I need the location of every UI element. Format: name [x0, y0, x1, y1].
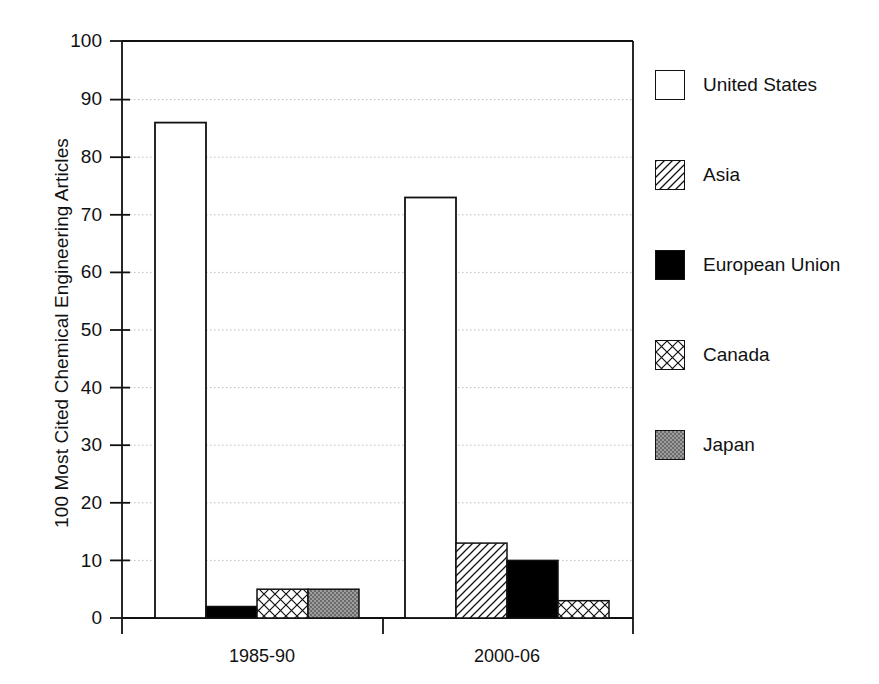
y-tick-label-50: 50 — [56, 320, 102, 339]
y-tick-label-100: 100 — [56, 31, 102, 50]
x-tick-label-2000-06: 2000-06 — [437, 646, 577, 667]
legend-item-united-states: United States — [655, 70, 817, 100]
bar-group-1985-90 — [155, 123, 359, 618]
y-tick-label-20: 20 — [56, 493, 102, 512]
y-tick-label-0: 0 — [56, 608, 102, 627]
legend-swatch-asia — [655, 160, 685, 190]
bar-united-states-2000-06 — [405, 198, 456, 619]
x-tick-label-1985-90: 1985-90 — [192, 646, 332, 667]
y-tick-label-70: 70 — [56, 205, 102, 224]
legend-label-canada: Canada — [703, 344, 770, 366]
legend-swatch-japan — [655, 430, 685, 460]
bar-canada-2000-06 — [558, 601, 609, 618]
legend-item-european-union: European Union — [655, 250, 840, 280]
bar-canada-1985-90 — [257, 589, 308, 618]
y-tick-label-80: 80 — [56, 147, 102, 166]
bar-group-2000-06 — [405, 198, 609, 619]
legend-label-asia: Asia — [703, 164, 740, 186]
x-axis-ticks — [122, 618, 633, 634]
bar-asia-2000-06 — [456, 543, 507, 618]
legend-swatch-european-union — [655, 250, 685, 280]
legend-swatch-canada — [655, 340, 685, 370]
y-tick-label-90: 90 — [56, 89, 102, 108]
legend-item-canada: Canada — [655, 340, 770, 370]
y-axis-ticks — [110, 41, 130, 618]
legend-label-european-union: European Union — [703, 254, 840, 276]
legend-item-asia: Asia — [655, 160, 740, 190]
y-tick-label-60: 60 — [56, 262, 102, 281]
legend-item-japan: Japan — [655, 430, 755, 460]
bar-united-states-1985-90 — [155, 123, 206, 618]
y-tick-label-10: 10 — [56, 551, 102, 570]
legend-label-japan: Japan — [703, 434, 755, 456]
bar-european-union-2000-06 — [507, 560, 558, 618]
y-tick-label-40: 40 — [56, 378, 102, 397]
bar-japan-1985-90 — [308, 589, 359, 618]
legend-label-united-states: United States — [703, 74, 817, 96]
legend-swatch-united-states — [655, 70, 685, 100]
y-tick-label-30: 30 — [56, 435, 102, 454]
bar-chart: 100 Most Cited Chemical Engineering Arti… — [0, 0, 879, 684]
bar-european-union-1985-90 — [206, 607, 257, 619]
